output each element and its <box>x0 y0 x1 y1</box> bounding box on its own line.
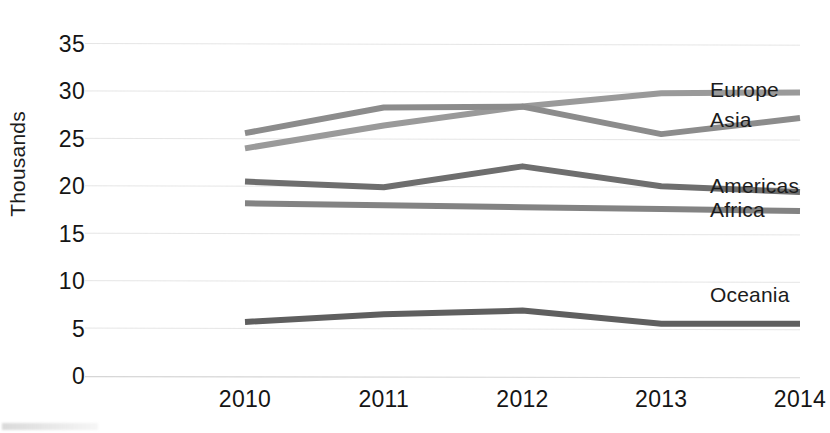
x-tick-2011: 2011 <box>329 386 439 413</box>
gridline-5 <box>85 328 800 330</box>
x-tick-2013: 2013 <box>606 386 716 413</box>
y-tick-10: 10 <box>39 268 85 295</box>
gridline-10 <box>85 281 800 283</box>
y-tick-15: 15 <box>39 220 85 247</box>
series-label-americas: Americas <box>710 174 799 198</box>
x-tick-2012: 2012 <box>468 386 578 413</box>
y-tick-20: 20 <box>39 173 85 200</box>
gridline-15 <box>85 233 800 235</box>
y-tick-30: 30 <box>39 78 85 105</box>
series-label-asia: Asia <box>710 108 752 132</box>
gridline-35 <box>85 44 800 46</box>
y-tick-25: 25 <box>39 125 85 152</box>
line-chart: Thousands 05101520253035 EuropeAsiaAmeri… <box>0 0 830 433</box>
x-tick-2014: 2014 <box>745 386 830 413</box>
plot-area: EuropeAsiaAmericasAfricaOceania <box>90 0 800 433</box>
y-tick-0: 0 <box>39 363 85 390</box>
gridline-0 <box>85 377 800 378</box>
x-tick-2010: 2010 <box>190 386 300 413</box>
y-axis-title: Thousands <box>6 84 30 244</box>
series-line-oceania[interactable] <box>245 311 800 324</box>
series-label-europe: Europe <box>710 78 779 102</box>
y-axis-tick-labels: 05101520253035 <box>35 0 85 433</box>
series-label-oceania: Oceania <box>710 283 790 307</box>
gridline-25 <box>85 138 800 140</box>
plot-svg <box>90 0 800 433</box>
scan-artifact <box>2 423 98 430</box>
series-label-africa: Africa <box>710 198 765 222</box>
y-tick-5: 5 <box>39 315 85 342</box>
y-tick-35: 35 <box>39 31 85 58</box>
